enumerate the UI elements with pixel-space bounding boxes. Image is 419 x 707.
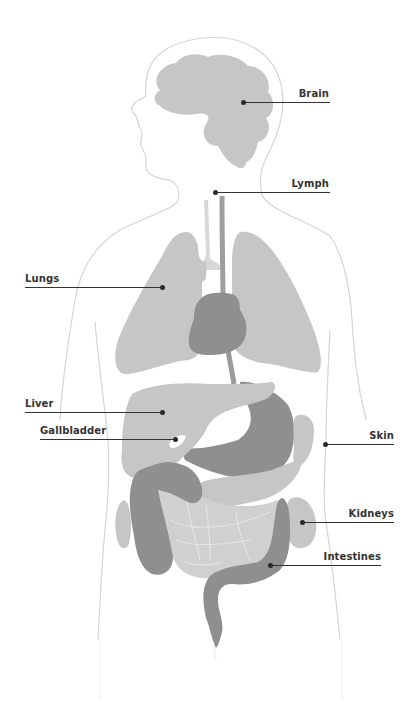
left-lung-shape [115, 232, 206, 374]
marker-dot-lungs [160, 285, 165, 290]
anatomy-illustration [0, 0, 419, 707]
marker-dot-skin [323, 442, 328, 447]
trachea-shape [200, 200, 222, 270]
marker-dot-gallbladder [173, 437, 178, 442]
right-lung-shape [232, 232, 321, 373]
spleen-shape [293, 415, 314, 467]
label-lymph: Lymph [292, 178, 329, 190]
label-skin: Skin [369, 430, 394, 442]
marker-dot-brain [241, 100, 246, 105]
marker-dot-lymph [213, 190, 218, 195]
leader-line-kidneys [303, 522, 394, 523]
leader-line-intestines [271, 565, 381, 566]
leader-line-gallbladder [40, 439, 176, 440]
leader-line-brain [244, 102, 330, 103]
marker-dot-kidneys [300, 520, 305, 525]
leader-line-lungs [25, 287, 163, 288]
label-brain: Brain [299, 88, 329, 100]
label-liver: Liver [25, 398, 54, 410]
leader-line-liver [25, 412, 163, 413]
marker-dot-liver [160, 410, 165, 415]
leader-line-skin [326, 444, 394, 445]
marker-dot-intestines [268, 563, 273, 568]
label-intestines: Intestines [324, 551, 381, 563]
leader-line-lymph [216, 192, 330, 193]
label-gallbladder: Gallbladder [40, 425, 106, 437]
label-kidneys: Kidneys [349, 508, 394, 520]
left-kidney-shape [115, 500, 131, 548]
label-lungs: Lungs [25, 273, 59, 285]
lymph-vessel [222, 196, 223, 300]
brain-shape [155, 54, 273, 168]
